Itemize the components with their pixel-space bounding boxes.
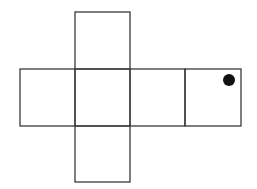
face-top <box>75 12 130 69</box>
dot-marker <box>223 74 235 86</box>
face-bottom <box>75 126 130 182</box>
face-left <box>20 69 75 126</box>
face-center <box>75 69 130 126</box>
face-right <box>130 69 185 126</box>
cube-net-diagram <box>0 0 257 189</box>
